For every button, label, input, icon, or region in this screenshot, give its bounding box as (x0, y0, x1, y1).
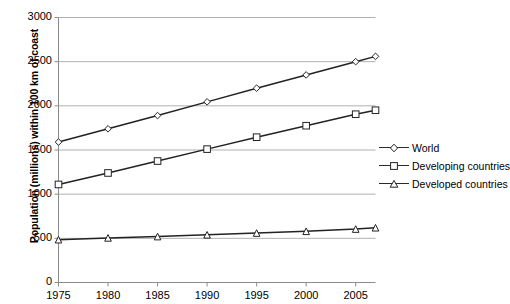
data-point-marker (154, 112, 161, 119)
x-tick-label: 1995 (234, 289, 280, 301)
data-point-marker (253, 134, 260, 141)
legend-item-developed-countries[interactable]: Developed countries (379, 175, 503, 193)
data-point-marker (303, 72, 310, 79)
data-point-marker (204, 146, 211, 153)
data-point-marker (352, 58, 359, 65)
legend-label-developed-countries: Developed countries (409, 178, 508, 190)
y-tick-label: 2000 (12, 98, 52, 110)
x-tick-label: 2005 (333, 289, 379, 301)
y-tick-label: 1000 (12, 187, 52, 199)
x-tick-label: 2000 (283, 289, 329, 301)
legend-item-world[interactable]: World (379, 139, 503, 157)
data-point-marker (303, 122, 310, 129)
data-point-marker (372, 107, 379, 114)
chart-legend: World Developing countries Developed cou… (379, 139, 503, 193)
x-tick-label: 1985 (135, 289, 181, 301)
data-point-marker (204, 99, 211, 106)
y-tick-label: 1500 (12, 143, 52, 155)
data-point-marker (105, 170, 112, 177)
legend-marker-triangle-icon (379, 177, 409, 191)
series-1 (55, 53, 379, 145)
series-2 (55, 107, 379, 188)
data-point-marker (154, 158, 161, 165)
legend-item-developing-countries[interactable]: Developing countries (379, 157, 503, 175)
y-tick-label: 0 (12, 275, 52, 287)
legend-marker-diamond-icon (379, 141, 409, 155)
data-point-marker (372, 53, 379, 60)
y-tick-label: 500 (12, 231, 52, 243)
data-point-marker (55, 181, 62, 188)
x-tick-label: 1980 (85, 289, 131, 301)
data-point-marker (105, 126, 112, 133)
y-tick-label: 3000 (12, 10, 52, 22)
x-tick-label: 1975 (36, 289, 82, 301)
legend-marker-square-icon (379, 159, 409, 173)
legend-label-developing-countries: Developing countries (409, 160, 510, 172)
data-point-marker (352, 111, 359, 118)
data-point-marker (55, 139, 62, 146)
x-tick-label: 1990 (184, 289, 230, 301)
legend-label-world: World (409, 142, 439, 154)
y-tick-label: 2500 (12, 54, 52, 66)
series-3 (55, 224, 379, 243)
data-point-marker (253, 85, 260, 92)
